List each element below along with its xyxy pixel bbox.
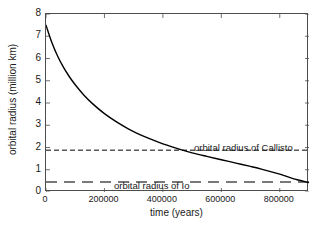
plot-area: orbital radius of Callisto orbital radiu… xyxy=(45,13,308,191)
x-tick-label: 800000 xyxy=(264,194,294,204)
x-tick-label: 400000 xyxy=(147,194,177,204)
x-tick-label: 0 xyxy=(42,194,47,204)
x-tick-label: 200000 xyxy=(88,194,118,204)
series-line-orbital-radius xyxy=(46,25,309,183)
tick-marks xyxy=(46,14,309,192)
x-tick-label: 600000 xyxy=(205,194,235,204)
x-axis-tick-labels: 0200000400000600000800000 xyxy=(45,194,308,206)
reference-lines xyxy=(46,150,309,182)
plot-canvas xyxy=(46,14,309,192)
chart-figure: 012345678 orbital radius (million km) or… xyxy=(0,0,323,229)
annotation-io: orbital radius of Io xyxy=(114,181,190,191)
annotation-callisto: orbital radius of Callisto xyxy=(194,143,293,153)
y-axis-title: orbital radius (million km) xyxy=(7,11,18,189)
x-axis-title: time (years) xyxy=(45,207,308,218)
data-series xyxy=(46,25,309,183)
